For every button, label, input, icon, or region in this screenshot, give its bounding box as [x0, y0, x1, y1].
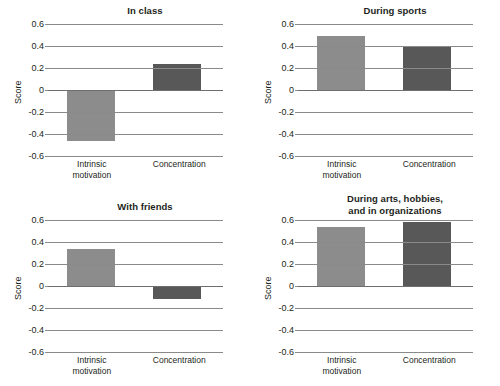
- y-tick-label: 0: [39, 86, 44, 95]
- gridline: [298, 112, 473, 113]
- y-tick-label: 0.2: [281, 64, 294, 73]
- y-tick-mark: [295, 242, 298, 243]
- y-tick-mark: [295, 68, 298, 69]
- y-tick-label: -0.2: [28, 304, 44, 313]
- y-tick-mark: [295, 308, 298, 309]
- plot-area: 0.60.40.20-0.2-0.4-0.6: [298, 24, 473, 156]
- gridline: [48, 242, 223, 243]
- y-tick-mark: [295, 46, 298, 47]
- gridline: [298, 264, 473, 265]
- x-axis-labels: Intrinsic motivation Concentration: [298, 159, 473, 180]
- gridline: [48, 134, 223, 135]
- gridline: [298, 330, 473, 331]
- y-tick-mark: [45, 242, 48, 243]
- gridline: [48, 68, 223, 69]
- y-tick-label: 0.4: [281, 238, 294, 247]
- gridline: [48, 156, 223, 157]
- gridline: [48, 264, 223, 265]
- y-tick-label: 0.2: [31, 64, 44, 73]
- y-tick-label: 0: [39, 282, 44, 291]
- bar-concentration: [403, 222, 451, 286]
- y-tick-label: -0.4: [28, 326, 44, 335]
- y-tick-mark: [45, 68, 48, 69]
- plot-area: 0.60.40.20-0.2-0.4-0.6: [48, 220, 223, 352]
- y-tick-label: -0.2: [278, 108, 294, 117]
- gridline: [48, 46, 223, 47]
- y-tick-label: -0.4: [278, 326, 294, 335]
- plot-area: 0.60.40.20-0.2-0.4-0.6: [48, 24, 223, 156]
- bar-intrinsic-motivation: [317, 227, 365, 286]
- x-label-intrinsic-motivation: Intrinsic motivation: [298, 159, 386, 180]
- y-axis-label: Score: [263, 276, 273, 300]
- gridline: [298, 134, 473, 135]
- x-label-concentration: Concentration: [386, 159, 474, 180]
- gridline: [298, 68, 473, 69]
- y-tick-label: -0.6: [28, 152, 44, 161]
- y-tick-mark: [295, 134, 298, 135]
- panel-title: During arts, hobbies, and in organizatio…: [296, 193, 494, 216]
- multi-panel-bar-chart-figure: In class Score 0.60.40.20-0.2-0.4-0.6 In…: [0, 0, 500, 386]
- y-tick-mark: [295, 264, 298, 265]
- y-tick-mark: [295, 352, 298, 353]
- bar-intrinsic-motivation: [317, 36, 365, 90]
- y-axis-label: Score: [13, 80, 23, 104]
- y-tick-mark: [45, 220, 48, 221]
- panel-title-line: With friends: [117, 201, 172, 212]
- gridline: [298, 308, 473, 309]
- gridline: [298, 90, 473, 91]
- y-tick-mark: [45, 308, 48, 309]
- y-tick-mark: [45, 330, 48, 331]
- panel-title-line: In class: [127, 5, 162, 16]
- bar-intrinsic-motivation: [67, 90, 115, 141]
- y-tick-label: -0.4: [278, 130, 294, 139]
- y-tick-label: -0.6: [278, 152, 294, 161]
- x-axis-labels: Intrinsic motivation Concentration: [48, 159, 223, 180]
- y-tick-mark: [45, 46, 48, 47]
- y-tick-mark: [295, 24, 298, 25]
- x-label-concentration: Concentration: [136, 159, 224, 180]
- panel-title: With friends: [46, 201, 244, 213]
- y-tick-mark: [45, 286, 48, 287]
- panel-title-line: During arts, hobbies,: [296, 193, 494, 205]
- gridline: [48, 286, 223, 287]
- y-tick-mark: [295, 90, 298, 91]
- y-tick-label: -0.2: [278, 304, 294, 313]
- y-tick-label: 0.4: [281, 42, 294, 51]
- x-label-intrinsic-motivation: Intrinsic motivation: [48, 355, 136, 376]
- y-tick-mark: [45, 156, 48, 157]
- y-tick-label: 0.6: [281, 216, 294, 225]
- gridline: [48, 90, 223, 91]
- gridline: [48, 220, 223, 221]
- y-tick-label: -0.4: [28, 130, 44, 139]
- x-axis-labels: Intrinsic motivation Concentration: [48, 355, 223, 376]
- y-tick-label: 0.6: [281, 20, 294, 29]
- panel-title: In class: [46, 5, 244, 17]
- y-tick-mark: [45, 352, 48, 353]
- gridline: [298, 352, 473, 353]
- y-tick-label: 0.6: [31, 216, 44, 225]
- y-tick-label: 0.2: [31, 260, 44, 269]
- panel-during-arts-hobbies-organizations: During arts, hobbies, and in organizatio…: [250, 190, 500, 386]
- y-tick-mark: [295, 156, 298, 157]
- gridline: [48, 308, 223, 309]
- gridline: [48, 24, 223, 25]
- y-tick-mark: [45, 24, 48, 25]
- y-tick-mark: [45, 134, 48, 135]
- x-label-concentration: Concentration: [386, 355, 474, 376]
- panel-in-class: In class Score 0.60.40.20-0.2-0.4-0.6 In…: [0, 0, 250, 190]
- gridline: [298, 242, 473, 243]
- panel-title: During sports: [296, 5, 494, 17]
- plot-area: 0.60.40.20-0.2-0.4-0.6: [298, 220, 473, 352]
- panel-during-sports: During sports Score 0.60.40.20-0.2-0.4-0…: [250, 0, 500, 190]
- y-tick-label: 0: [289, 282, 294, 291]
- gridline: [298, 24, 473, 25]
- panel-title-line: During sports: [364, 5, 427, 16]
- x-axis-labels: Intrinsic motivation Concentration: [298, 355, 473, 376]
- panel-title-line: and in organizations: [296, 205, 494, 217]
- y-axis-label: Score: [263, 80, 273, 104]
- y-tick-label: -0.6: [28, 348, 44, 357]
- panel-grid: In class Score 0.60.40.20-0.2-0.4-0.6 In…: [0, 0, 500, 386]
- y-tick-label: 0: [289, 86, 294, 95]
- bar-intrinsic-motivation: [67, 249, 115, 286]
- x-label-intrinsic-motivation: Intrinsic motivation: [298, 355, 386, 376]
